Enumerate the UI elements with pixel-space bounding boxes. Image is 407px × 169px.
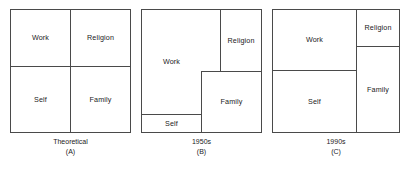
region-label: Religion <box>87 34 114 41</box>
caption-title: Theoretical <box>10 137 131 147</box>
region-label: Religion <box>227 37 254 44</box>
region-b-family: Family <box>202 72 261 132</box>
caption-letter: (B) <box>141 147 262 157</box>
panel-theoretical: Work Religion Self Family <box>10 9 131 133</box>
region-a-work: Work <box>11 10 70 66</box>
region-label: Work <box>163 58 180 65</box>
divider-c-vertical <box>356 9 357 133</box>
caption-title: 1990s <box>272 137 400 147</box>
region-b-self: Self <box>142 115 201 132</box>
region-label: Work <box>32 34 49 41</box>
region-a-religion: Religion <box>71 10 130 66</box>
panel-1990s: Work Religion Self Family <box>272 9 400 133</box>
divider-b-religion-family <box>201 71 262 72</box>
region-b-work: Work <box>142 10 201 113</box>
caption-panel-c: 1990s (C) <box>272 137 400 156</box>
panel-1950s: Work Religion Family Self <box>141 9 262 133</box>
region-c-self: Self <box>273 71 356 132</box>
region-label: Self <box>308 98 321 105</box>
region-label: Family <box>89 96 111 103</box>
divider-a-vertical <box>70 9 71 133</box>
divider-b-work-religion <box>220 9 221 72</box>
region-c-family: Family <box>357 47 399 132</box>
region-label: Self <box>34 96 47 103</box>
three-panel-area-diagram: Work Religion Self Family Theoretical (A… <box>0 0 407 169</box>
region-label: Family <box>367 86 389 93</box>
caption-panel-a: Theoretical (A) <box>10 137 131 156</box>
caption-title: 1950s <box>141 137 262 147</box>
region-label: Religion <box>364 24 391 31</box>
region-label: Self <box>165 120 178 127</box>
region-c-work: Work <box>273 10 356 69</box>
caption-letter: (A) <box>10 147 131 157</box>
divider-b-work-family <box>201 71 202 133</box>
region-a-family: Family <box>71 67 130 132</box>
divider-c-work-self <box>272 70 357 71</box>
region-a-self: Self <box>11 67 70 132</box>
region-label: Family <box>220 98 242 105</box>
region-c-religion: Religion <box>357 10 399 46</box>
caption-panel-b: 1950s (B) <box>141 137 262 156</box>
caption-letter: (C) <box>272 147 400 157</box>
divider-b-work-self <box>141 114 202 115</box>
region-b-religion: Religion <box>221 10 261 71</box>
region-label: Work <box>306 36 323 43</box>
divider-c-religion-family <box>356 46 400 47</box>
